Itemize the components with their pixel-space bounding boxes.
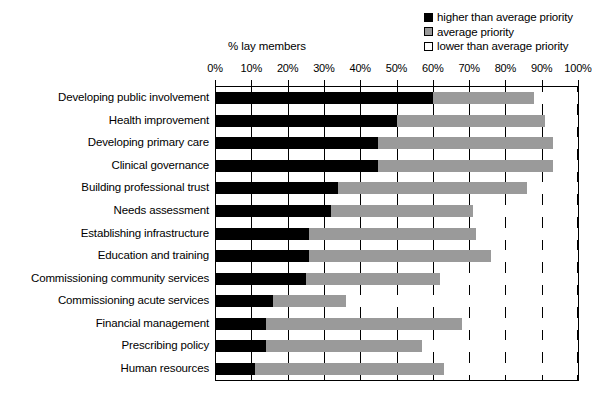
bar-segment-average [306,273,440,285]
bar-segment-higher [215,340,266,352]
bar-segment-average [338,182,527,194]
x-tick-label: 90% [531,62,552,74]
y-category-label: Developing primary care [88,136,209,149]
legend-item-average: average priority [424,25,609,40]
y-category-label: Human resources [120,362,209,375]
bar-segment-lower [422,340,578,352]
bar-segment-average [273,295,346,307]
x-tick-label: 70% [458,62,479,74]
bar-segment-average [433,92,535,104]
bar-segment-higher [215,318,266,330]
legend-label-average: average priority [437,26,514,38]
bar-row [215,137,578,149]
y-category-label: Prescribing policy [122,339,209,352]
plot-frame-right [578,87,579,380]
x-tick-label: 30% [313,62,334,74]
plot-frame-bottom [215,380,579,381]
bar-row [215,250,578,262]
bar-segment-average [397,115,546,127]
bar-segment-higher [215,137,378,149]
stacked-bar-chart: higher than average priority average pri… [0,0,609,406]
bar-segment-lower [553,160,578,172]
bar-segment-higher [215,92,433,104]
legend-item-lower: lower than average priority [424,39,609,54]
y-category-label: Commissioning acute services [58,294,209,307]
bar-segment-average [266,340,422,352]
bar-segment-lower [476,228,578,240]
bar-segment-average [331,205,473,217]
bar-segment-lower [440,273,578,285]
bar-row [215,205,578,217]
bar-row [215,182,578,194]
bar-segment-lower [491,250,578,262]
bar-segment-average [378,160,552,172]
bar-segment-higher [215,205,331,217]
black-square-icon [424,13,433,22]
bar-segment-lower [545,115,578,127]
bar-segment-lower [534,92,578,104]
gray-square-icon [424,27,433,36]
legend-label-lower: lower than average priority [437,40,568,52]
bar-segment-higher [215,182,338,194]
y-category-label: Financial management [96,317,209,330]
plot-area [215,87,578,380]
legend-label-higher: higher than average priority [437,11,573,23]
y-category-label: Education and training [98,249,209,262]
bar-row [215,228,578,240]
bar-segment-higher [215,273,306,285]
x-axis-title: % lay members [228,40,306,52]
white-square-icon [424,42,433,51]
bar-segment-lower [346,295,578,307]
legend-item-higher: higher than average priority [424,10,609,25]
bar-segment-lower [444,363,578,375]
bar-row [215,340,578,352]
bar-row [215,273,578,285]
x-tick-label: 50% [386,62,407,74]
bar-row [215,295,578,307]
y-category-label: Health improvement [109,114,209,127]
y-category-label: Clinical governance [111,159,209,172]
x-tick-label: 60% [422,62,443,74]
bar-row [215,318,578,330]
x-axis-tick-labels: 0%10%20%30%40%50%60%70%80%90%100% [215,62,578,76]
bar-row [215,160,578,172]
bar-row [215,363,578,375]
bar-rows [215,87,578,380]
bar-row [215,115,578,127]
bar-segment-higher [215,250,309,262]
y-category-label: Commissioning community services [31,272,209,285]
bar-segment-higher [215,363,255,375]
bar-segment-lower [553,137,578,149]
x-tick-label: 100% [564,62,591,74]
bar-row [215,92,578,104]
y-category-label: Developing public involvement [58,91,209,104]
bar-segment-average [309,228,476,240]
bar-segment-higher [215,115,397,127]
x-tick-label: 80% [495,62,516,74]
x-tick-label: 40% [349,62,370,74]
bar-segment-higher [215,160,378,172]
x-tick-label: 20% [277,62,298,74]
bar-segment-lower [473,205,578,217]
bar-segment-average [266,318,462,330]
bar-segment-average [255,363,444,375]
bar-segment-lower [462,318,578,330]
x-tick-label: 0% [207,62,223,74]
bar-segment-average [378,137,552,149]
bar-segment-average [309,250,491,262]
y-category-label: Establishing infrastructure [81,227,209,240]
y-category-label: Building professional trust [81,181,209,194]
y-axis-category-labels: Developing public involvementHealth impr… [0,87,209,380]
bar-segment-higher [215,295,273,307]
chart-legend: higher than average priority average pri… [424,10,609,54]
bar-segment-lower [527,182,578,194]
x-tick-label: 10% [241,62,262,74]
bar-segment-higher [215,228,309,240]
y-category-label: Needs assessment [114,204,209,217]
